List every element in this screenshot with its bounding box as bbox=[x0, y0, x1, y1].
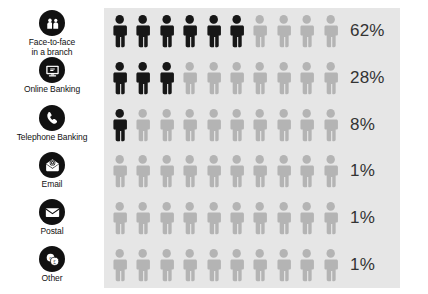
pictogram-figure-empty bbox=[272, 108, 295, 142]
pictogram-figure-empty bbox=[108, 154, 131, 188]
pictogram-figure bbox=[248, 201, 271, 235]
pictogram-figure bbox=[225, 61, 248, 95]
monitor-icon bbox=[39, 57, 65, 83]
pictogram-figure-empty bbox=[295, 248, 318, 282]
pictogram-figure-filled bbox=[155, 14, 178, 48]
pictogram-figure bbox=[131, 61, 154, 95]
pictogram-row: 62% bbox=[104, 8, 400, 55]
legend-item-label: Face-to-face in a branch bbox=[29, 38, 76, 57]
legend-item[interactable]: Postal bbox=[0, 199, 104, 237]
legend-item-label: Telephone Banking bbox=[17, 133, 88, 143]
percentage-label: 1% bbox=[350, 255, 375, 275]
pictogram-figure bbox=[248, 108, 271, 142]
pictogram-figure bbox=[295, 108, 318, 142]
pictogram-figures bbox=[104, 8, 342, 55]
pictogram-figures bbox=[104, 241, 342, 288]
legend-item[interactable]: €£Other bbox=[0, 246, 104, 284]
pictogram-figures bbox=[104, 101, 342, 148]
pictogram-figure bbox=[225, 154, 248, 188]
pictogram-figure bbox=[131, 14, 154, 48]
pictogram-row: 1% bbox=[104, 241, 400, 288]
pictogram-figure-empty bbox=[248, 108, 271, 142]
pictogram-figure-empty bbox=[202, 201, 225, 235]
legend-item[interactable]: Telephone Banking bbox=[0, 105, 104, 143]
pictogram-figure bbox=[225, 108, 248, 142]
envelope-icon bbox=[39, 199, 65, 225]
pictogram-figure bbox=[155, 108, 178, 142]
two-people-icon bbox=[39, 10, 65, 36]
pictogram-figure bbox=[131, 108, 154, 142]
legend-item[interactable]: Online Banking bbox=[0, 57, 104, 95]
svg-text:£: £ bbox=[53, 258, 56, 264]
pictogram-figure-empty bbox=[108, 201, 131, 235]
pictogram-figure-filled bbox=[248, 14, 253, 48]
pictogram-figure-empty bbox=[178, 154, 201, 188]
pictogram-figure bbox=[272, 14, 295, 48]
pictogram-figure bbox=[248, 61, 271, 95]
pictogram-figure-empty bbox=[272, 201, 295, 235]
legend-item-label: Email bbox=[42, 180, 63, 190]
pictogram-figure-empty bbox=[202, 61, 225, 95]
pictogram-figure-empty bbox=[272, 248, 295, 282]
pictogram-figure-empty bbox=[225, 61, 248, 95]
pictogram-row: 8% bbox=[104, 101, 400, 148]
pictogram-figure bbox=[155, 61, 178, 95]
pictogram-figure-empty bbox=[178, 108, 201, 142]
pictogram-figure bbox=[178, 154, 201, 188]
pictogram-figure bbox=[295, 14, 318, 48]
pictogram-figure-empty bbox=[202, 108, 225, 142]
pictogram-figure-empty bbox=[131, 248, 154, 282]
pictogram-figure-empty bbox=[225, 248, 248, 282]
pictogram-figure bbox=[155, 201, 178, 235]
pictogram-figure bbox=[295, 201, 318, 235]
pictogram-figure-empty bbox=[131, 108, 154, 142]
pictogram-panel: 62%28%8%1%1%1% bbox=[104, 8, 400, 288]
percentage-label: 1% bbox=[350, 161, 375, 181]
pictogram-infographic: Face-to-face in a branchOnline BankingTe… bbox=[0, 0, 428, 294]
pictogram-figure-empty bbox=[272, 154, 295, 188]
pictogram-figure bbox=[225, 248, 248, 282]
pictogram-figure-empty bbox=[272, 14, 295, 48]
legend-item-label: Online Banking bbox=[24, 85, 80, 95]
legend-item[interactable]: Email bbox=[0, 152, 104, 190]
pictogram-figure bbox=[202, 14, 225, 48]
pictogram-figure-empty bbox=[248, 154, 271, 188]
pictogram-figure-filled bbox=[108, 14, 131, 48]
pictogram-figure bbox=[248, 14, 271, 48]
pictogram-figure-empty bbox=[155, 108, 178, 142]
pictogram-figure bbox=[248, 248, 271, 282]
pictogram-figure bbox=[108, 201, 131, 235]
pictogram-row: 1% bbox=[104, 195, 400, 242]
pictogram-figure bbox=[202, 61, 225, 95]
pictogram-row: 28% bbox=[104, 55, 400, 102]
pictogram-figure-empty bbox=[178, 248, 201, 282]
pictogram-figures bbox=[104, 195, 342, 242]
pictogram-figure bbox=[108, 14, 131, 48]
pictogram-figure-empty bbox=[319, 108, 342, 142]
pictogram-figure bbox=[108, 108, 131, 142]
pictogram-figure bbox=[155, 14, 178, 48]
pictogram-figure-filled bbox=[225, 14, 248, 48]
pictogram-figure bbox=[319, 108, 342, 142]
pictogram-figure-empty bbox=[225, 201, 248, 235]
pictogram-figure bbox=[202, 248, 225, 282]
pictogram-figure-empty bbox=[295, 108, 318, 142]
pictogram-figures bbox=[104, 148, 342, 195]
percentage-label: 8% bbox=[350, 115, 375, 135]
telephone-handset-icon bbox=[39, 105, 65, 131]
legend-column: Face-to-face in a branchOnline BankingTe… bbox=[0, 0, 104, 294]
pictogram-figure bbox=[295, 61, 318, 95]
pictogram-figure-empty bbox=[319, 61, 342, 95]
pictogram-figure bbox=[178, 14, 201, 48]
legend-item[interactable]: Face-to-face in a branch bbox=[0, 10, 104, 57]
pictogram-figure-filled bbox=[108, 108, 127, 142]
pictogram-figure-empty bbox=[131, 154, 154, 188]
pictogram-figure-empty bbox=[295, 14, 318, 48]
pictogram-figure-filled bbox=[131, 61, 154, 95]
pictogram-rows: 62%28%8%1%1%1% bbox=[104, 8, 400, 288]
pictogram-figure-empty bbox=[295, 61, 318, 95]
pictogram-figure-empty bbox=[248, 201, 271, 235]
coins-currency-icon: €£ bbox=[39, 246, 65, 272]
pictogram-figure bbox=[202, 201, 225, 235]
pictogram-figure-filled bbox=[108, 61, 131, 95]
